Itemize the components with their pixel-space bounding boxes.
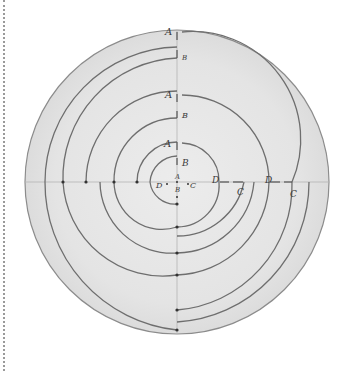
label-b0: B: [174, 186, 180, 194]
label-c2: C: [290, 189, 297, 199]
label-a2: A: [164, 89, 172, 100]
label-b1: B: [181, 54, 187, 62]
label-c1: C: [237, 187, 244, 197]
spiral-construction-diagram: A B A B A B A B D C D C D C: [0, 0, 351, 371]
label-d1: D: [211, 175, 219, 185]
label-a0: A: [174, 173, 180, 181]
label-b2: B: [181, 111, 188, 120]
label-c0: C: [190, 181, 196, 190]
label-d0: D: [155, 181, 163, 190]
label-d2: D: [264, 175, 272, 185]
label-a1: A: [164, 26, 172, 37]
label-a3: A: [163, 138, 171, 149]
label-b3: B: [181, 158, 189, 168]
